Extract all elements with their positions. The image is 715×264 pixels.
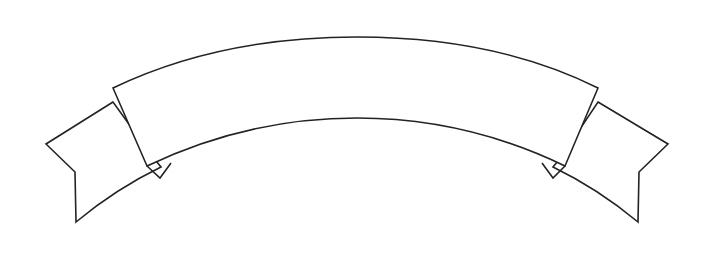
banner-ribbon-artwork — [0, 0, 715, 264]
center-panel — [113, 37, 598, 166]
canvas — [0, 0, 715, 264]
